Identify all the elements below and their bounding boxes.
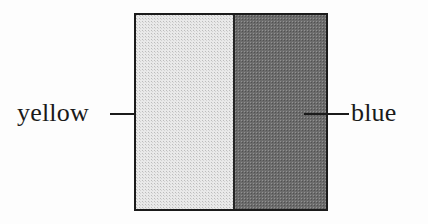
color-swatch-figure: yellow blue [0,0,428,224]
right-swatch-label: blue [351,100,397,126]
right-leader-line [304,113,349,115]
swatch-half-yellow [136,15,233,209]
left-swatch-label: yellow [17,100,89,126]
swatch-half-blue [233,15,326,209]
swatch-square [134,13,328,211]
